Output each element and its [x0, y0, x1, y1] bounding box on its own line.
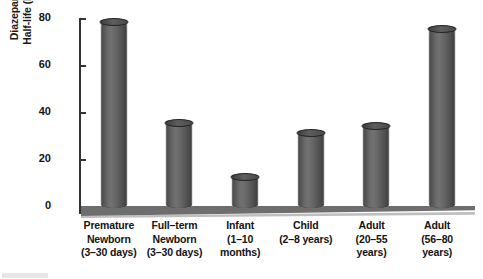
- x-axis-label-line: (56–80: [400, 233, 474, 247]
- y-axis-title-line-1: Diazepam: [8, 0, 21, 86]
- bar-cylinder-top: [165, 119, 194, 127]
- bar-5: [344, 18, 410, 208]
- x-axis-label-line: Newborn: [138, 233, 212, 247]
- bar-cylinder-body: [166, 123, 193, 208]
- bar-6: [409, 18, 475, 208]
- bar-cylinder-top: [296, 129, 325, 137]
- x-axis-label-line: Premature: [72, 219, 146, 233]
- bar-cylinder-top: [99, 18, 128, 26]
- bar-cylinder-body: [297, 133, 324, 208]
- bar-cylinder-top: [231, 173, 260, 181]
- bar-cylinder-body: [232, 177, 259, 208]
- x-axis-label-line: Child: [269, 219, 343, 233]
- y-tick-label-40: 40: [39, 105, 51, 117]
- bar-cylinder: [166, 123, 193, 208]
- x-axis-label-line: Infant: [203, 219, 277, 233]
- bar-2: [147, 18, 213, 208]
- y-axis-title-line-2: Half-life (hr): [21, 0, 34, 86]
- x-axis-label-line: (3–30 days): [72, 246, 146, 260]
- x-axis-label-1: PrematureNewborn(3–30 days): [72, 219, 146, 260]
- x-axis-label-line: Full–term: [138, 219, 212, 233]
- bar-cylinder-top: [362, 122, 391, 130]
- y-tick-label-0: 0: [45, 199, 51, 211]
- y-tick-label-20: 20: [39, 152, 51, 164]
- x-axis-label-5: Adult(20–55years): [335, 219, 409, 260]
- bar-cylinder-body: [429, 29, 456, 208]
- x-axis-label-line: (3–30 days): [138, 246, 212, 260]
- y-tick-label-60: 60: [39, 58, 51, 70]
- bar-cylinder-body: [100, 22, 127, 208]
- x-axis-label-line: Adult: [335, 219, 409, 233]
- x-axis-label-line: years): [400, 246, 474, 260]
- x-axis-label-line: Newborn: [72, 233, 146, 247]
- x-axis-label-line: (2–8 years): [269, 233, 343, 247]
- bar-cylinder: [297, 133, 324, 208]
- x-axis-label-line: Adult: [400, 219, 474, 233]
- x-axis-label-4: Child(2–8 years): [269, 219, 343, 246]
- bar-cylinder-body: [363, 126, 390, 208]
- plot-area: 80 60 40 20 0: [55, 10, 475, 216]
- floor-platform: [81, 206, 475, 220]
- bar-4: [278, 18, 344, 208]
- bar-cylinder: [429, 29, 456, 208]
- x-axis-label-line: (1–10: [203, 233, 277, 247]
- bar-cylinder: [232, 177, 259, 208]
- page-artifact: [2, 273, 48, 278]
- bar-cylinder: [363, 126, 390, 208]
- x-axis-label-6: Adult(56–80years): [400, 219, 474, 260]
- bar-cylinder-top: [428, 25, 457, 33]
- x-axis-label-line: months): [203, 246, 277, 260]
- x-axis-labels: PrematureNewborn(3–30 days)Full–termNewb…: [81, 219, 475, 279]
- y-tick-label-80: 80: [39, 11, 51, 23]
- x-axis-label-3: Infant(1–10months): [203, 219, 277, 260]
- x-axis-label-line: years): [335, 246, 409, 260]
- bar-cylinder: [100, 22, 127, 208]
- bar-3: [212, 18, 278, 208]
- chart-figure: Diazepam Half-life (hr) 80 60 40 20 0: [0, 0, 483, 279]
- bar-1: [81, 18, 147, 208]
- x-axis-label-line: (20–55: [335, 233, 409, 247]
- bar-series: [81, 18, 475, 208]
- x-axis-label-2: Full–termNewborn(3–30 days): [138, 219, 212, 260]
